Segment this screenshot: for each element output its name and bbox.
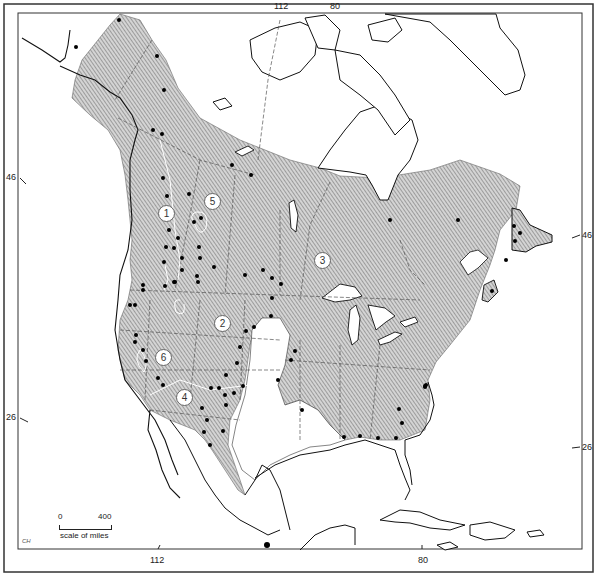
tick-right-26: 26 <box>582 443 592 452</box>
scale-unit-label: scale of miles <box>60 531 108 540</box>
region-label-6: 6 <box>155 349 172 366</box>
tick-bottom-80: 80 <box>418 556 428 565</box>
map-figure: 112 80 112 80 46 26 46 26 1 2 3 4 5 6 0 … <box>0 0 597 583</box>
region-label-2: 2 <box>214 315 231 332</box>
map-svg <box>0 0 597 583</box>
tick-left-46: 46 <box>6 173 16 182</box>
artist-signature: CH <box>22 538 31 544</box>
scale-bar-line <box>59 525 112 530</box>
tick-bottom-112: 112 <box>150 556 164 565</box>
scale-start: 0 <box>58 512 62 521</box>
tick-left-26: 26 <box>6 413 16 422</box>
scale-bar: 0 400 scale of miles <box>58 512 118 552</box>
region-label-4: 4 <box>176 389 193 406</box>
scale-end: 400 <box>98 512 111 521</box>
region-label-3: 3 <box>314 252 331 269</box>
tick-top-80: 80 <box>330 2 340 11</box>
region-label-5: 5 <box>204 193 221 210</box>
region-label-1: 1 <box>158 205 175 222</box>
tick-right-46: 46 <box>582 231 592 240</box>
tick-top-112: 112 <box>274 2 288 11</box>
